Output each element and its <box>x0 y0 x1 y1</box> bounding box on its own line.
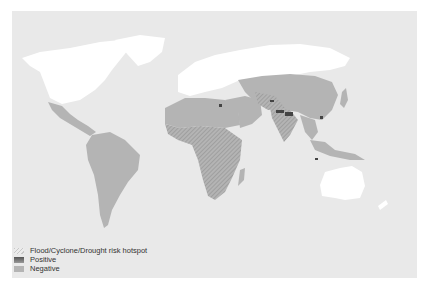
legend-item-positive: Positive <box>14 255 147 264</box>
north-america <box>22 40 128 104</box>
australia <box>320 166 365 200</box>
legend-label: Positive <box>30 255 56 264</box>
mexico-central-america <box>48 102 96 136</box>
legend-item-hotspot: Flood/Cyclone/Drought risk hotspot <box>14 246 147 255</box>
india <box>270 108 298 142</box>
dark-swatch-icon <box>14 257 24 263</box>
south-america <box>86 132 140 228</box>
legend: Flood/Cyclone/Drought risk hotspot Posit… <box>14 246 147 273</box>
legend-label: Negative <box>30 264 60 273</box>
hatch-icon <box>14 248 24 254</box>
sub-saharan-africa <box>165 124 242 200</box>
indonesia <box>310 140 365 160</box>
legend-label: Flood/Cyclone/Drought risk hotspot <box>30 246 147 255</box>
world-map <box>0 0 427 288</box>
madagascar <box>238 168 245 186</box>
new-zealand <box>378 200 388 210</box>
japan <box>340 88 348 108</box>
gray-swatch-icon <box>14 266 24 272</box>
legend-item-negative: Negative <box>14 264 147 273</box>
